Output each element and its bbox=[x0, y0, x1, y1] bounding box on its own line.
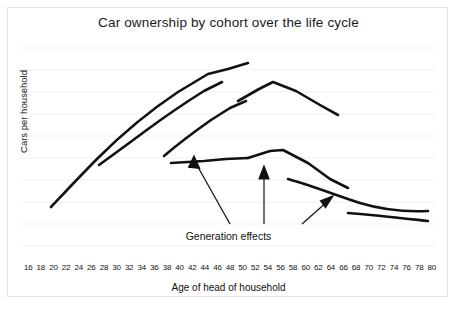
x-axis-title: Age of head of household bbox=[8, 282, 448, 293]
x-tick-label: 18 bbox=[37, 263, 46, 272]
x-tick-label: 20 bbox=[49, 263, 58, 272]
x-tick-label: 54 bbox=[264, 263, 273, 272]
series-line-cohort-8 bbox=[348, 213, 428, 221]
x-tick-label: 44 bbox=[201, 263, 210, 272]
x-tick-label: 66 bbox=[339, 263, 348, 272]
x-tick-label: 36 bbox=[150, 263, 159, 272]
chart-container: Car ownership by cohort over the life cy… bbox=[7, 7, 448, 297]
x-tick-label: 24 bbox=[74, 263, 83, 272]
annotation-generation-effects: Generation effects bbox=[8, 230, 448, 242]
annotation-arrow-middle bbox=[259, 166, 269, 224]
x-tick-label: 80 bbox=[428, 263, 437, 272]
series-line-cohort-2 bbox=[99, 82, 222, 165]
x-tick-label: 46 bbox=[213, 263, 222, 272]
x-tick-label: 76 bbox=[402, 263, 411, 272]
x-tick-label: 38 bbox=[163, 263, 172, 272]
x-tick-label: 42 bbox=[188, 263, 197, 272]
chart-title: Car ownership by cohort over the life cy… bbox=[8, 15, 448, 30]
annotation-arrow-right bbox=[302, 196, 333, 224]
x-tick-label: 30 bbox=[112, 263, 121, 272]
x-tick-label: 60 bbox=[301, 263, 310, 272]
x-tick-label: 64 bbox=[327, 263, 336, 272]
x-tick-label: 74 bbox=[390, 263, 399, 272]
x-tick-label: 34 bbox=[137, 263, 146, 272]
x-tick-label: 56 bbox=[276, 263, 285, 272]
series-line-cohort-7 bbox=[288, 179, 428, 211]
chart-plot-area bbox=[8, 8, 448, 297]
series-line-cohort-4 bbox=[238, 82, 338, 115]
x-tick-label: 26 bbox=[87, 263, 96, 272]
x-tick-label: 52 bbox=[251, 263, 260, 272]
x-tick-label: 28 bbox=[100, 263, 109, 272]
x-tick-label: 58 bbox=[289, 263, 298, 272]
x-tick-label: 72 bbox=[377, 263, 386, 272]
x-tick-label: 50 bbox=[238, 263, 247, 272]
x-tick-label: 70 bbox=[364, 263, 373, 272]
x-tick-label: 68 bbox=[352, 263, 361, 272]
x-tick-label: 62 bbox=[314, 263, 323, 272]
x-tick-label: 16 bbox=[24, 263, 33, 272]
annotation-arrow-left bbox=[189, 156, 230, 224]
x-tick-label: 40 bbox=[175, 263, 184, 272]
y-axis-title: Cars per household bbox=[18, 57, 29, 167]
x-tick-label: 32 bbox=[125, 263, 134, 272]
x-tick-label: 48 bbox=[226, 263, 235, 272]
x-tick-label: 78 bbox=[415, 263, 424, 272]
series-line-cohort-5 bbox=[171, 158, 248, 163]
x-axis-tick-labels: 1618202224262830323436384042444648505254… bbox=[24, 263, 436, 272]
x-tick-label: 22 bbox=[62, 263, 71, 272]
